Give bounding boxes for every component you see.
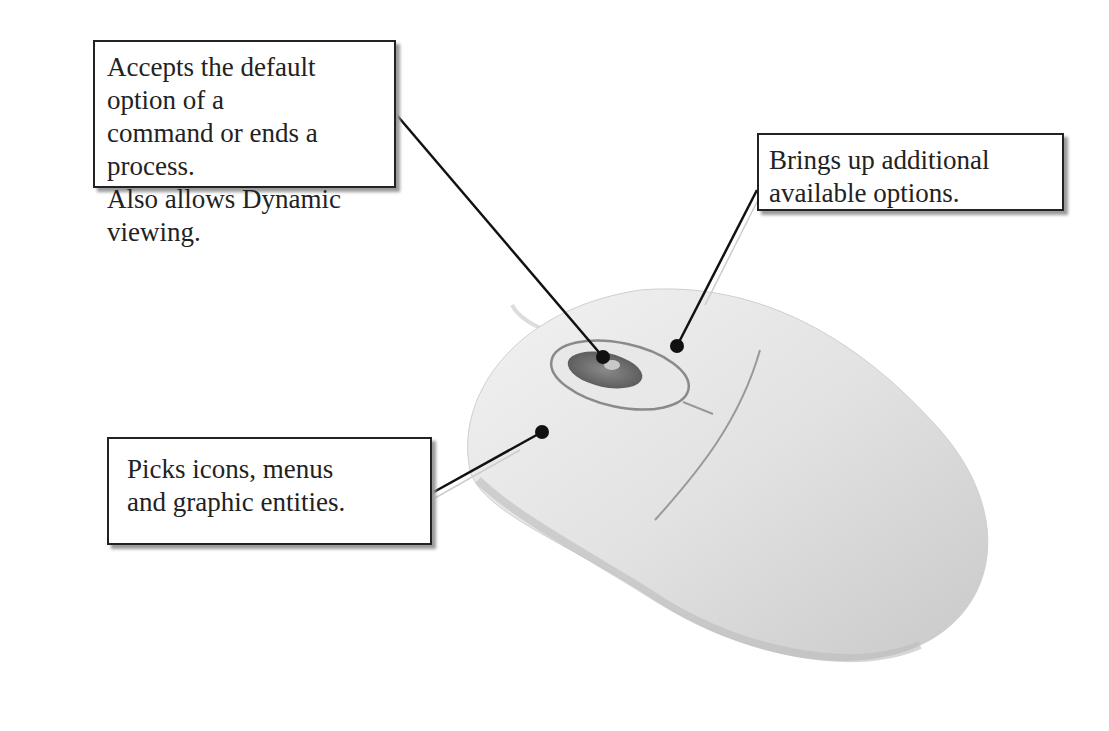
callout-text-line: available options.	[769, 177, 1050, 210]
anchor-dot-middle	[596, 350, 610, 364]
callout-right-button: Brings up additional available options.	[757, 133, 1064, 211]
mouse-body	[468, 289, 988, 660]
anchor-dot-right	[670, 339, 684, 353]
callout-text-line: Also allows Dynamic viewing.	[107, 183, 382, 249]
callout-left-button: Picks icons, menus and graphic entities.	[107, 437, 432, 545]
anchor-dot-left	[535, 425, 549, 439]
callout-text-line: command or ends a process.	[107, 117, 382, 183]
callout-text-line: Picks icons, menus	[127, 453, 412, 486]
callout-text-line: Brings up additional	[769, 144, 1050, 177]
leader-line-middle	[395, 113, 603, 357]
callout-text-line: Accepts the default option of a	[107, 51, 382, 117]
callout-text-line: and graphic entities.	[127, 486, 412, 519]
callout-middle-button: Accepts the default option of a command …	[93, 40, 396, 188]
